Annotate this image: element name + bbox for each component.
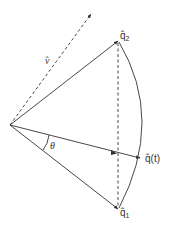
v-hat-vector <box>10 14 91 125</box>
theta-angle-arc <box>43 135 49 150</box>
q2-vector <box>10 41 118 125</box>
v-hat-label: v̂ <box>45 55 50 66</box>
slerp-diagram: q̂2 q̂(t) q̂1 v̂ θ <box>0 0 172 228</box>
theta-label: θ <box>50 140 55 151</box>
q1-label: q̂1 <box>120 207 130 219</box>
chord-intersection-arrow-icon <box>111 150 117 155</box>
qt-label: q̂(t) <box>145 153 160 164</box>
interpolation-arc <box>119 42 142 208</box>
q2-label: q̂2 <box>120 30 130 42</box>
q1-vector <box>10 125 118 209</box>
qt-vector <box>10 125 140 158</box>
